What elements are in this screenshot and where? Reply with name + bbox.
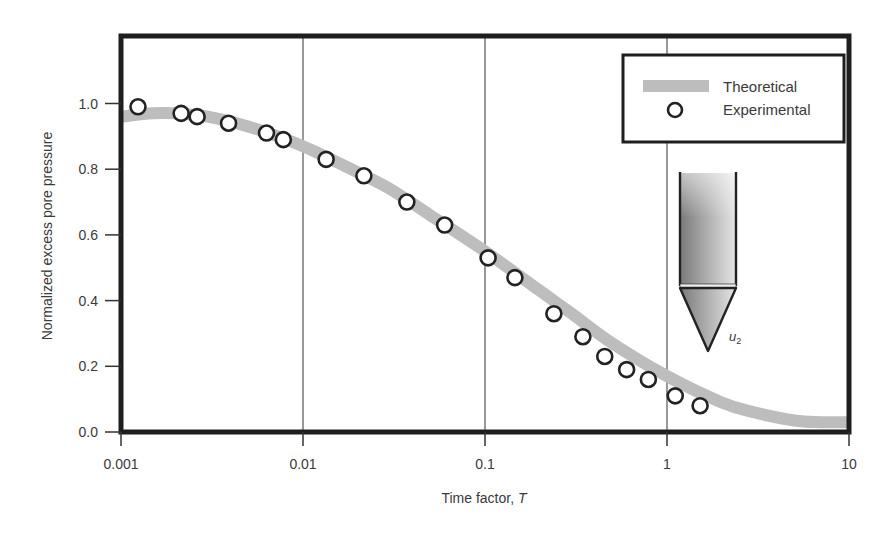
legend-box bbox=[623, 55, 844, 142]
y-axis-ticks: 0.00.20.40.60.81.0 bbox=[79, 96, 121, 441]
experimental-point bbox=[319, 152, 334, 167]
legend-experimental-label: Experimental bbox=[723, 101, 811, 118]
probe-label: u2 bbox=[729, 329, 741, 346]
experimental-point bbox=[399, 195, 414, 210]
experimental-point bbox=[481, 250, 496, 265]
x-axis-ticks: 0.0010.010.1110 bbox=[103, 432, 857, 472]
experimental-points bbox=[131, 99, 708, 413]
cone-probe-illustration: u2 bbox=[680, 172, 741, 351]
experimental-point bbox=[546, 306, 561, 321]
legend-experimental-marker bbox=[668, 103, 682, 117]
experimental-point bbox=[174, 106, 189, 121]
experimental-point bbox=[575, 329, 590, 344]
experimental-point bbox=[641, 372, 656, 387]
x-tick-label: 1 bbox=[663, 456, 671, 472]
experimental-point bbox=[693, 398, 708, 413]
gridlines bbox=[303, 36, 667, 432]
chart: 0.00.20.40.60.81.0 0.0010.010.1110 Norma… bbox=[0, 0, 894, 547]
x-tick-label: 0.01 bbox=[289, 456, 316, 472]
experimental-point bbox=[597, 349, 612, 364]
legend-theoretical-label: Theoretical bbox=[723, 78, 797, 95]
y-tick-label: 1.0 bbox=[79, 96, 99, 112]
y-tick-label: 0.6 bbox=[79, 227, 99, 243]
x-tick-label: 10 bbox=[841, 456, 857, 472]
experimental-point bbox=[437, 218, 452, 233]
experimental-point bbox=[507, 270, 522, 285]
experimental-point bbox=[668, 388, 683, 403]
x-axis-title-main: Time factor, bbox=[441, 490, 518, 506]
experimental-point bbox=[131, 99, 146, 114]
y-tick-label: 0.4 bbox=[79, 293, 99, 309]
x-tick-label: 0.001 bbox=[103, 456, 138, 472]
experimental-point bbox=[356, 168, 371, 183]
y-tick-label: 0.0 bbox=[79, 424, 99, 440]
experimental-point bbox=[619, 362, 634, 377]
x-axis-title: Time factor, T bbox=[441, 490, 528, 506]
y-tick-label: 0.2 bbox=[79, 358, 99, 374]
experimental-point bbox=[190, 109, 205, 124]
x-axis-title-var: T bbox=[518, 490, 528, 506]
experimental-point bbox=[259, 126, 274, 141]
experimental-point bbox=[221, 116, 236, 131]
experimental-point bbox=[276, 132, 291, 147]
legend: Theoretical Experimental bbox=[623, 55, 844, 142]
y-tick-label: 0.8 bbox=[79, 161, 99, 177]
y-axis-title: Normalized excess pore pressure bbox=[39, 132, 55, 341]
legend-theoretical-swatch bbox=[643, 80, 709, 92]
x-tick-label: 0.1 bbox=[475, 456, 495, 472]
